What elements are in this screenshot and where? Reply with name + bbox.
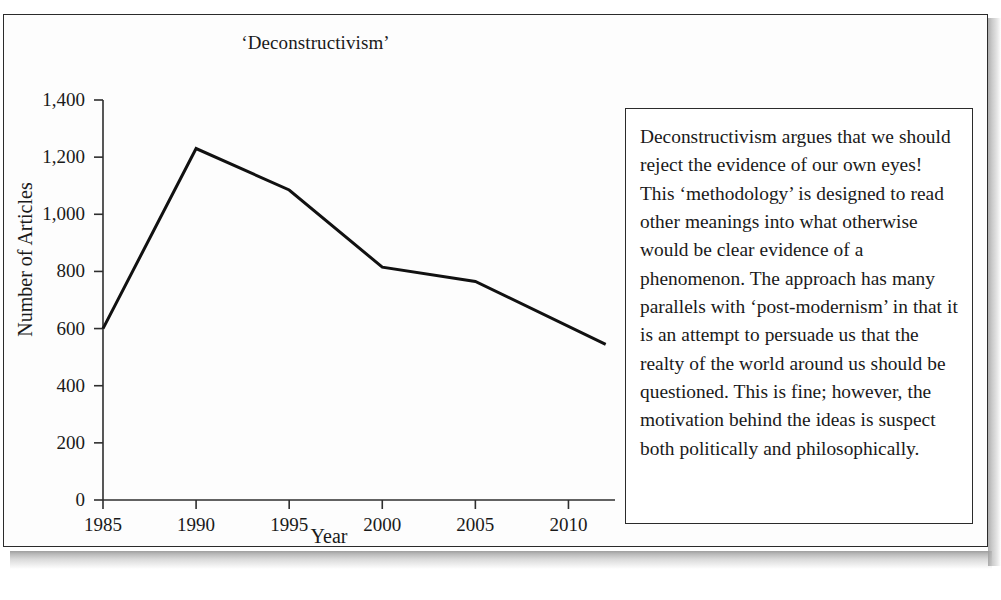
commentary-text: Deconstructivism argues that we should r… [640,123,959,463]
y-tick-label: 1,400 [0,89,85,111]
y-tick-label: 1,000 [0,203,85,225]
y-tick-label: 0 [0,489,85,511]
y-tick-label: 1,200 [0,146,85,168]
y-tick-label: 800 [0,260,85,282]
figure: ‘Deconstructivism’ Number of Articles Ye… [3,14,988,547]
scanned-page: ‘Deconstructivism’ Number of Articles Ye… [0,0,1001,600]
data-series-line [103,149,606,345]
x-tick-label: 1995 [270,514,308,536]
scan-shadow-bottom [10,551,992,569]
y-tick-label: 400 [0,375,85,397]
x-tick-label: 2000 [363,514,401,536]
x-tick-label: 1985 [84,514,122,536]
x-tick-label: 2010 [549,514,587,536]
x-tick-label: 2005 [456,514,494,536]
x-tick-label: 1990 [177,514,215,536]
scan-shadow-right [988,18,1001,566]
commentary-box: Deconstructivism argues that we should r… [625,108,973,524]
y-tick-label: 600 [0,318,85,340]
y-tick-label: 200 [0,432,85,454]
